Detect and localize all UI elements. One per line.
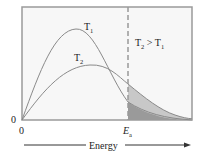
temperature-comparison-label: T2 > T1 bbox=[135, 37, 164, 50]
y-origin-label: 0 bbox=[11, 114, 16, 125]
activation-energy-label: Ea bbox=[122, 125, 132, 138]
energy-axis-label: Energy bbox=[89, 140, 118, 151]
energy-distribution-diagram: T1 T2 T2 > T1 0 0 Ea Energy bbox=[0, 0, 203, 154]
arrow-right-icon bbox=[184, 143, 191, 148]
x-origin-label: 0 bbox=[19, 125, 24, 136]
plot-frame bbox=[22, 7, 192, 120]
